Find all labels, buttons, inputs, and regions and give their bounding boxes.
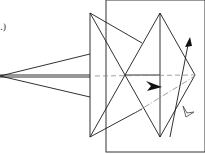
valley-fold-line [95, 75, 195, 76]
diagonal-fold-line [135, 76, 195, 113]
origami-diagram [0, 0, 205, 154]
hollow-arrow-icon [183, 106, 194, 117]
left-spike [0, 54, 90, 97]
